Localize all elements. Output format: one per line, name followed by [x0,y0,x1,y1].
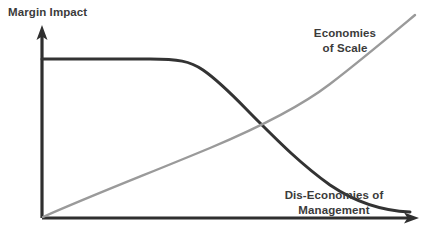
annotation-economies-line-2: of Scale [323,42,368,54]
annotation-economies-line-1: Economies [314,27,376,39]
chart-canvas: Margin Impact Economiesof Scale Dis-Econ… [0,0,422,242]
annotation-diseconomies-line-1: Dis-Economies of [285,189,384,201]
annotation-economies-of-scale: Economiesof Scale [303,26,387,56]
annotation-dis-economies-of-management: Dis-Economies ofManagement [262,188,406,218]
annotation-diseconomies-line-2: Management [298,204,369,216]
y-axis-title: Margin Impact [8,5,87,20]
